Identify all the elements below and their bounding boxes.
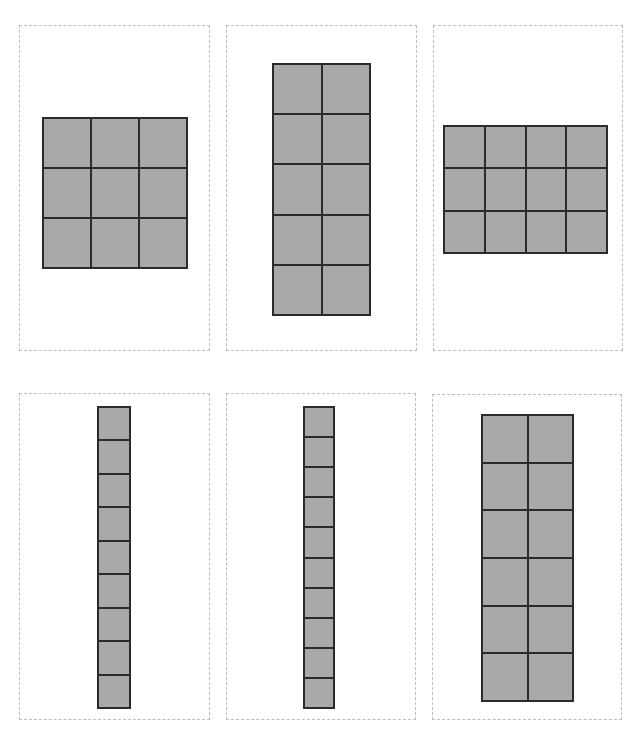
array-grid bbox=[97, 406, 131, 709]
grid-cell bbox=[529, 511, 573, 557]
grid-cell bbox=[529, 607, 573, 653]
grid-cell bbox=[92, 169, 138, 217]
grid-cell bbox=[274, 115, 321, 163]
grid-cell bbox=[44, 169, 90, 217]
grid-cell bbox=[140, 219, 186, 267]
grid-cell bbox=[305, 498, 333, 526]
array-grid bbox=[443, 125, 608, 254]
grid-cell bbox=[445, 212, 484, 252]
grid-cell bbox=[99, 609, 129, 640]
grid-cell bbox=[99, 542, 129, 573]
grid-cell bbox=[92, 119, 138, 167]
grid-cell bbox=[529, 416, 573, 462]
array-grid bbox=[272, 63, 371, 316]
grid-cell bbox=[274, 65, 321, 113]
grid-cell bbox=[305, 589, 333, 617]
grid-cell bbox=[140, 119, 186, 167]
array-grid bbox=[42, 117, 188, 269]
grid-cell bbox=[305, 528, 333, 556]
grid-cell bbox=[483, 464, 527, 510]
grid-cell bbox=[567, 127, 606, 167]
grid-cell bbox=[527, 127, 566, 167]
grid-cell bbox=[305, 438, 333, 466]
grid-cell bbox=[483, 559, 527, 605]
grid-cell bbox=[323, 165, 370, 213]
grid-cell bbox=[527, 169, 566, 209]
grid-cell bbox=[529, 654, 573, 700]
grid-cell bbox=[323, 216, 370, 264]
grid-cell bbox=[323, 266, 370, 314]
grid-cell bbox=[483, 654, 527, 700]
grid-cell bbox=[486, 127, 525, 167]
grid-cell bbox=[140, 169, 186, 217]
grid-cell bbox=[99, 575, 129, 606]
grid-cell bbox=[486, 212, 525, 252]
grid-cell bbox=[445, 169, 484, 209]
grid-cell bbox=[305, 679, 333, 707]
grid-cell bbox=[274, 216, 321, 264]
grid-cell bbox=[99, 642, 129, 673]
grid-cell bbox=[44, 219, 90, 267]
grid-cell bbox=[44, 119, 90, 167]
grid-cell bbox=[529, 559, 573, 605]
grid-cell bbox=[305, 468, 333, 496]
grid-cell bbox=[323, 65, 370, 113]
grid-cell bbox=[529, 464, 573, 510]
grid-cell bbox=[483, 607, 527, 653]
grid-cell bbox=[323, 115, 370, 163]
grid-cell bbox=[99, 508, 129, 539]
grid-cell bbox=[483, 511, 527, 557]
grid-cell bbox=[305, 408, 333, 436]
grid-cell bbox=[527, 212, 566, 252]
grid-cell bbox=[274, 165, 321, 213]
grid-cell bbox=[99, 475, 129, 506]
array-grid bbox=[303, 406, 335, 709]
grid-cell bbox=[274, 266, 321, 314]
grid-cell bbox=[483, 416, 527, 462]
grid-cell bbox=[99, 676, 129, 707]
grid-cell bbox=[486, 169, 525, 209]
grid-cell bbox=[305, 619, 333, 647]
array-grid bbox=[481, 414, 574, 702]
grid-cell bbox=[305, 559, 333, 587]
grid-cell bbox=[305, 649, 333, 677]
grid-cell bbox=[99, 441, 129, 472]
grid-cell bbox=[567, 212, 606, 252]
grid-cell bbox=[92, 219, 138, 267]
grid-cell bbox=[567, 169, 606, 209]
grid-cell bbox=[99, 408, 129, 439]
grid-cell bbox=[445, 127, 484, 167]
